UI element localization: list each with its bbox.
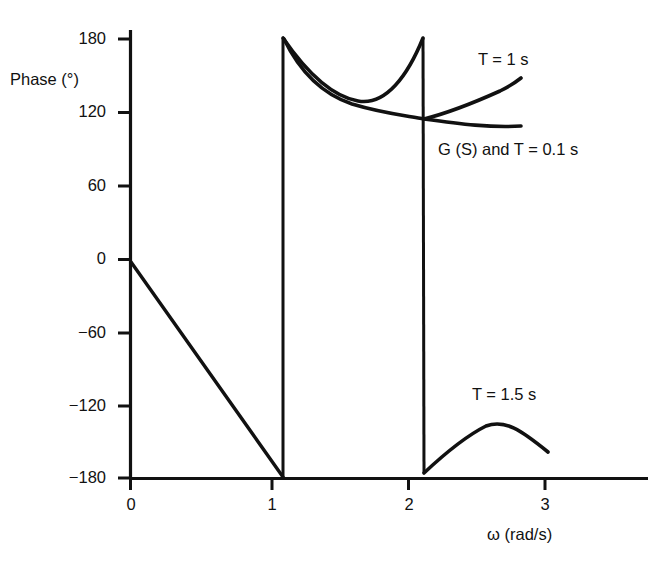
y-axis-title: Phase (°) xyxy=(10,70,79,89)
series-t15-branch3 xyxy=(424,424,548,473)
x-tick-label-0: 0 xyxy=(111,495,151,514)
x-axis-title-unit: (rad/s) xyxy=(504,525,552,543)
x-tick-label-2: 2 xyxy=(389,495,429,514)
x-tick-label-1: 1 xyxy=(252,495,292,514)
series-t15-branch1 xyxy=(131,262,283,477)
phase-plot-figure: 180 120 60 0 −60 −120 −180 0 1 2 3 Phase… xyxy=(0,0,666,571)
x-tick-label-3: 3 xyxy=(525,495,565,514)
y-tick-label-0: 0 xyxy=(40,249,106,268)
y-tick-label-60: 60 xyxy=(40,176,106,195)
annotation-t1: T = 1 s xyxy=(478,50,529,69)
y-tick-label-neg180: −180 xyxy=(34,468,106,487)
annotation-t15: T = 1.5 s xyxy=(472,385,536,404)
y-tick-label-120: 120 xyxy=(40,102,106,121)
y-tick-label-neg120: −120 xyxy=(34,396,106,415)
annotation-gs-t01: G (S) and T = 0.1 s xyxy=(438,140,578,159)
y-tick-label-neg60: −60 xyxy=(34,323,106,342)
x-axis-title: ω (rad/s) xyxy=(487,525,552,544)
discontinuity-jump-2 xyxy=(423,38,424,473)
series-t1 xyxy=(424,78,521,119)
y-tick-label-180: 180 xyxy=(40,29,106,48)
x-axis-title-symbol: ω xyxy=(487,525,500,543)
